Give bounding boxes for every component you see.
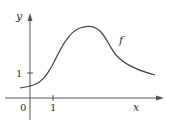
y-tick-label: 1 xyxy=(16,68,22,79)
x-tick-label: 1 xyxy=(50,102,56,113)
x-axis-label: x xyxy=(133,101,140,114)
chart: y x 0 1 1 f xyxy=(0,0,170,126)
y-axis-label: y xyxy=(15,10,23,23)
curve-f xyxy=(20,26,155,88)
y-axis-arrow-icon xyxy=(28,13,33,21)
x-axis-arrow-icon xyxy=(156,96,164,101)
curve-label: f xyxy=(118,34,125,47)
origin-label: 0 xyxy=(20,102,26,113)
